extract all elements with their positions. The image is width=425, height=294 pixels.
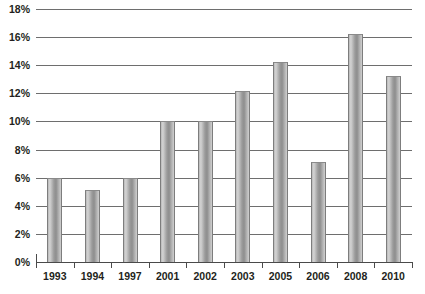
x-tick-mark bbox=[111, 262, 112, 268]
x-tick-mark bbox=[262, 262, 263, 268]
bar-2003 bbox=[235, 91, 250, 262]
bar-2006 bbox=[311, 162, 326, 262]
x-tick-mark bbox=[224, 262, 225, 268]
x-tick-label: 1993 bbox=[43, 270, 66, 282]
y-tick-label: 10% bbox=[9, 115, 30, 127]
x-tick-label: 2003 bbox=[231, 270, 254, 282]
x-tick-mark bbox=[149, 262, 150, 268]
bar-1994 bbox=[85, 190, 100, 262]
x-tick-mark bbox=[74, 262, 75, 268]
y-tick-label: 0% bbox=[15, 256, 30, 268]
y-tick-label: 12% bbox=[9, 87, 30, 99]
x-tick-mark bbox=[186, 262, 187, 268]
bar-2005 bbox=[273, 62, 288, 262]
y-tick-label: 16% bbox=[9, 31, 30, 43]
x-axis: 1993199419972001200220032005200620082010 bbox=[36, 262, 412, 292]
x-tick-mark bbox=[412, 262, 413, 268]
x-tick-label: 2005 bbox=[269, 270, 292, 282]
y-tick-label: 18% bbox=[9, 3, 30, 15]
bar-series bbox=[36, 9, 412, 262]
y-tick-label: 6% bbox=[15, 172, 30, 184]
x-tick-label: 1997 bbox=[118, 270, 141, 282]
x-tick-label: 2002 bbox=[194, 270, 217, 282]
y-tick-label: 8% bbox=[15, 144, 30, 156]
x-tick-mark bbox=[36, 262, 37, 268]
x-tick-label: 2010 bbox=[382, 270, 405, 282]
bar-2001 bbox=[160, 121, 175, 262]
bar-2010 bbox=[386, 76, 401, 262]
bar-1997 bbox=[123, 178, 138, 262]
bar-2002 bbox=[198, 121, 213, 262]
x-tick-mark bbox=[299, 262, 300, 268]
x-tick-label: 2001 bbox=[156, 270, 179, 282]
x-tick-label: 1994 bbox=[81, 270, 104, 282]
x-tick-label: 2008 bbox=[344, 270, 367, 282]
bar-1993 bbox=[47, 178, 62, 262]
y-tick-label: 4% bbox=[15, 200, 30, 212]
bar-chart: 0%2%4%6%8%10%12%14%16%18% 19931994199720… bbox=[0, 0, 425, 294]
y-axis: 0%2%4%6%8%10%12%14%16%18% bbox=[0, 9, 30, 262]
x-tick-mark bbox=[374, 262, 375, 268]
bar-2008 bbox=[348, 34, 363, 262]
x-tick-label: 2006 bbox=[306, 270, 329, 282]
y-tick-label: 14% bbox=[9, 59, 30, 71]
x-tick-mark bbox=[337, 262, 338, 268]
y-tick-label: 2% bbox=[15, 228, 30, 240]
